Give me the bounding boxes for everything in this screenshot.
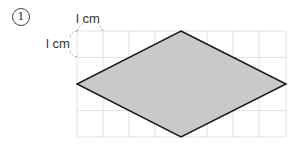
rhombus-shape	[77, 31, 286, 137]
rhombus-diagram	[0, 0, 294, 144]
unit-brackets	[70, 22, 103, 57]
